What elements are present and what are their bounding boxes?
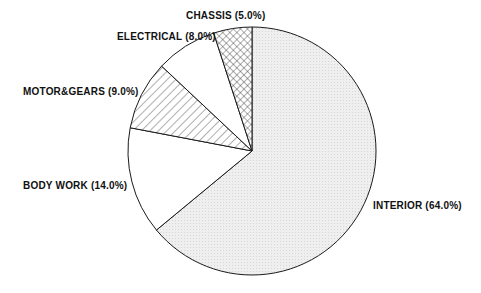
label-body-work: BODY WORK (14.0%) xyxy=(23,180,127,191)
label-interior: INTERIOR (64.0%) xyxy=(373,200,462,211)
label-motor-gears: MOTOR&GEARS (9.0%) xyxy=(23,86,139,97)
label-chassis: CHASSIS (5.0%) xyxy=(186,10,266,21)
label-electrical: ELECTRICAL (8.0%) xyxy=(117,31,216,42)
pie-chart xyxy=(0,0,481,293)
